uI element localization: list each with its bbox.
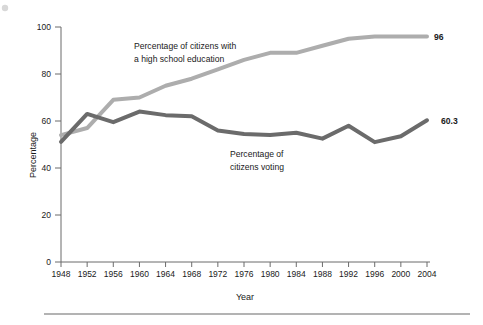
education-annotation-line-2: a high school education — [134, 54, 225, 64]
x-tick-label-1964: 1964 — [156, 269, 175, 279]
x-tick-label-1992: 1992 — [339, 269, 358, 279]
x-tick-label-1976: 1976 — [235, 269, 254, 279]
end-value-label-voting: 60.3 — [441, 116, 458, 126]
x-axis-ticks: 1948195219561960196419681972197619801984… — [52, 262, 437, 279]
end-value-label-education: 96 — [434, 32, 444, 42]
y-tick-label-100: 100 — [37, 22, 51, 32]
x-tick-label-1980: 1980 — [261, 269, 280, 279]
x-tick-label-1968: 1968 — [182, 269, 201, 279]
y-tick-label-80: 80 — [42, 69, 52, 79]
y-tick-label-40: 40 — [42, 163, 52, 173]
voting-annotation: Percentage of citizens voting — [230, 149, 284, 172]
y-tick-label-60: 60 — [42, 116, 52, 126]
y-tick-label-20: 20 — [42, 210, 52, 220]
x-tick-label-1988: 1988 — [313, 269, 332, 279]
voting-annotation-line-1: Percentage of — [230, 149, 284, 159]
corner-artifact — [2, 5, 8, 11]
education-annotation-line-1: Percentage of citizens with — [134, 41, 236, 51]
voting-annotation-line-2: citizens voting — [230, 162, 284, 172]
x-tick-label-1972: 1972 — [208, 269, 227, 279]
x-tick-label-1948: 1948 — [52, 269, 71, 279]
education-annotation: Percentage of citizens with a high schoo… — [134, 41, 236, 64]
x-tick-label-1952: 1952 — [78, 269, 97, 279]
series-line-voting — [61, 112, 427, 143]
x-axis-title: Year — [236, 292, 254, 302]
y-axis-ticks: 0 20 40 60 80 100 — [37, 22, 61, 267]
x-tick-label-2000: 2000 — [391, 269, 410, 279]
y-tick-label-0: 0 — [46, 257, 51, 267]
x-tick-label-1956: 1956 — [104, 269, 123, 279]
axes-group — [61, 27, 430, 262]
x-tick-label-1984: 1984 — [287, 269, 306, 279]
x-tick-label-1960: 1960 — [130, 269, 149, 279]
x-tick-label-1996: 1996 — [365, 269, 384, 279]
x-tick-label-2004: 2004 — [418, 269, 437, 279]
chart-figure: 0 20 40 60 80 100 1948195219561960196419… — [0, 0, 483, 325]
series-group — [61, 36, 427, 142]
line-chart-svg: 0 20 40 60 80 100 1948195219561960196419… — [0, 0, 483, 325]
y-axis-title: Percentage — [28, 132, 38, 178]
